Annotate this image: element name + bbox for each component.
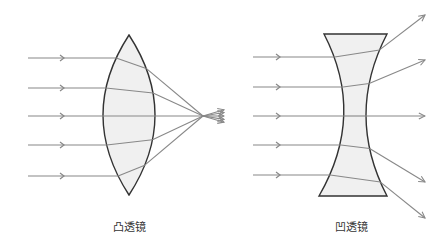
- concave-lens-label: 凹透镜: [311, 218, 391, 234]
- refracted-ray: [153, 93, 203, 116]
- lens-diagram: [0, 0, 448, 249]
- convex-lens-label: 凸透镜: [89, 218, 169, 234]
- diverging-ray: [380, 182, 425, 218]
- concave-lens-group: [253, 15, 425, 218]
- diverging-ray: [369, 60, 425, 84]
- diverging-ray: [380, 15, 425, 50]
- concave-lens-shape: [319, 34, 387, 196]
- refracted-ray: [153, 116, 203, 140]
- convex-lens-group: [28, 35, 224, 195]
